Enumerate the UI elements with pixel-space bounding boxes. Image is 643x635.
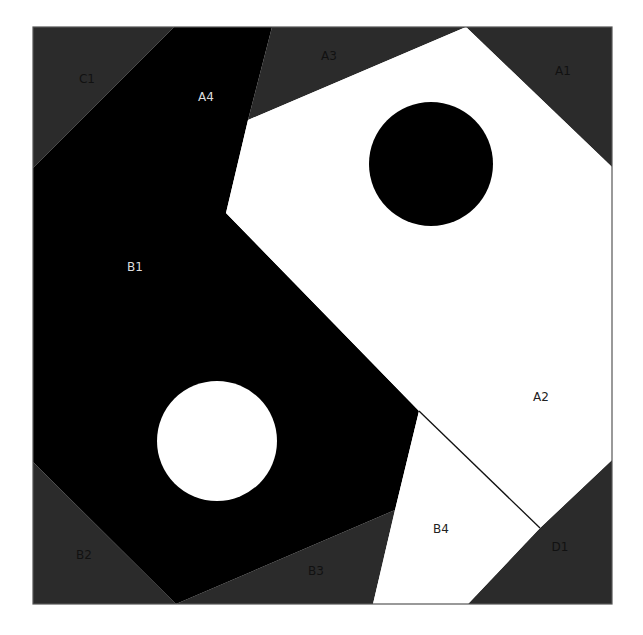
white-dot <box>157 381 277 501</box>
label-c1: C1 <box>79 72 95 86</box>
label-d1: D1 <box>552 540 569 554</box>
regions-group <box>33 27 612 604</box>
label-b2: B2 <box>76 548 92 562</box>
label-a1: A1 <box>555 64 571 78</box>
label-b4: B4 <box>433 522 449 536</box>
yin-yang-tangram-diagram: C1A4A3A1B1A2B4D1B2B3 <box>0 0 643 635</box>
label-a4: A4 <box>198 90 214 104</box>
label-a3: A3 <box>321 49 337 63</box>
label-a2: A2 <box>533 390 549 404</box>
label-b1: B1 <box>127 260 143 274</box>
label-b3: B3 <box>308 564 324 578</box>
black-dot <box>369 102 493 226</box>
